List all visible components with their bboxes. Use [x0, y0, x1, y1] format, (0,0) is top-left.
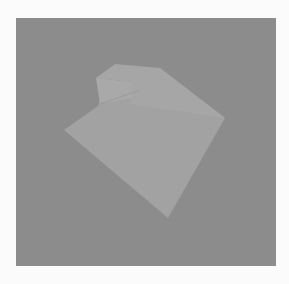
- 3d-scene: [0, 0, 289, 284]
- render-canvas: [0, 0, 289, 284]
